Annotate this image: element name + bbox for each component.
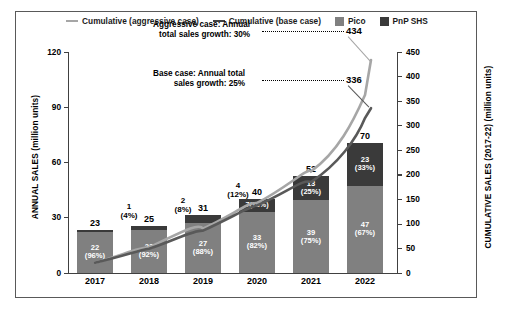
y-label-right-50: 50 — [406, 244, 415, 252]
y-tick-right-50 — [398, 248, 402, 249]
y-label-left-60: 60 — [52, 158, 61, 166]
bar-segment-pnp-2021[interactable]: 13 (25%) — [293, 176, 329, 200]
y-label-right-450: 450 — [406, 48, 420, 56]
y-tick-right-400 — [398, 76, 402, 77]
legend-item-pnp-shs: PnP SHS — [380, 16, 428, 26]
y-tick-right-300 — [398, 125, 402, 126]
bar-segment-pico-2017[interactable]: 22 (96%) — [77, 232, 113, 273]
bar-percent-pico-2019: (88%) — [193, 248, 213, 256]
annotation-aggressive-line2: total sales growth: 30% — [159, 30, 250, 39]
annotation-aggressive-line1: Aggressive case: Annual — [153, 20, 250, 29]
bar-total-2019: 31 — [185, 203, 221, 213]
y-tick-right-350 — [398, 101, 402, 102]
legend-swatch-icon-pico — [335, 17, 344, 26]
y-label-right-0: 0 — [406, 269, 411, 277]
x-label-2020: 2020 — [230, 276, 284, 286]
bar-group-2019[interactable]: 31 27 (88%) 4 (12%) — [185, 215, 221, 272]
bar-segment-pico-2018[interactable]: 23 (92%) — [131, 230, 167, 273]
bar-percent-pico-2020: (82%) — [247, 242, 267, 250]
y-tick-right-0 — [398, 273, 402, 274]
bar-segment-pnp-2019[interactable] — [185, 215, 221, 222]
bar-percent-pico-2022: (67%) — [355, 229, 375, 237]
x-label-2021: 2021 — [284, 276, 338, 286]
x-label-2017: 2017 — [68, 276, 122, 286]
bar-percent-pnp-2021: (25%) — [301, 188, 321, 196]
y-tick-right-450 — [398, 52, 402, 53]
annotation-base-case: Base case: Annual total sales growth: 25… — [153, 69, 245, 90]
bar-total-2021: 52 — [293, 164, 329, 174]
legend-line-icon-aggressive — [66, 20, 78, 23]
y-label-right-400: 400 — [406, 72, 420, 80]
bar-group-2017[interactable]: 23 22 (96%) 1 (4%) — [77, 230, 113, 273]
leader-line-base — [262, 80, 344, 81]
leader-line-aggressive — [262, 31, 344, 32]
y-tick-left-90 — [64, 107, 68, 108]
y-label-left-30: 30 — [52, 213, 61, 221]
bar-group-2022[interactable]: 70 23 (33%) 47 (67%) — [347, 143, 383, 273]
bar-total-2020: 40 — [239, 187, 275, 197]
bar-percent-pico-2018: (92%) — [139, 251, 159, 259]
bar-total-2022: 70 — [347, 131, 383, 141]
y-tick-left-30 — [64, 217, 68, 218]
y-tick-right-150 — [398, 199, 402, 200]
y-axis-left-title: ANNUAL SALES (million units) — [30, 77, 40, 237]
bar-group-2020[interactable]: 40 7(18%) 33 (82%) — [239, 199, 275, 273]
y-label-left-0: 0 — [56, 269, 61, 277]
y-label-right-150: 150 — [406, 195, 420, 203]
bar-segment-pnp-2020[interactable]: 7(18%) — [239, 199, 275, 212]
y-tick-right-250 — [398, 150, 402, 151]
annotation-aggressive-case: Aggressive case: Annual total sales grow… — [153, 20, 250, 41]
annotation-base-line2: sales growth: 25% — [174, 79, 245, 88]
x-axis-line — [68, 273, 398, 274]
bar-value-pnp-2017: 1 — [127, 202, 131, 211]
y-axis-right-line — [397, 52, 398, 274]
bar-segment-pico-2019[interactable]: 27 (88%) — [185, 223, 221, 273]
y-tick-left-120 — [64, 52, 68, 53]
y-axis-right-title: CUMULATIVE SALES (2017-22) (million unit… — [483, 57, 493, 257]
y-label-right-250: 250 — [406, 146, 420, 154]
legend-label-pnp-shs: PnP SHS — [393, 16, 428, 26]
y-tick-left-60 — [64, 162, 68, 163]
y-label-right-350: 350 — [406, 97, 420, 105]
bar-total-2018: 25 — [131, 214, 167, 224]
end-value-aggressive: 434 — [346, 25, 362, 36]
bar-percent-pico-2017: (96%) — [85, 252, 105, 260]
bar-segment-pico-2020[interactable]: 33 (82%) — [239, 212, 275, 273]
bar-percent-pnp-2022: (33%) — [355, 164, 375, 172]
chart-frame: Cumulative (aggressive case) Cumulative … — [15, 11, 477, 298]
y-axis-left-line — [68, 52, 69, 274]
y-tick-left-0 — [64, 273, 68, 274]
bar-group-2018[interactable]: 25 23 (92%) 2 (8%) — [131, 226, 167, 272]
y-tick-right-200 — [398, 174, 402, 175]
bar-segment-pnp-2022[interactable]: 23 (33%) — [347, 143, 383, 186]
y-label-right-200: 200 — [406, 170, 420, 178]
bar-segment-pico-2022[interactable]: 47 (67%) — [347, 186, 383, 273]
bar-segment-pico-2021[interactable]: 39 (75%) — [293, 200, 329, 272]
x-label-2022: 2022 — [338, 276, 392, 286]
bar-group-2021[interactable]: 52 13 (25%) 39 (75%) — [293, 176, 329, 272]
legend-swatch-icon-pnp — [380, 17, 389, 26]
x-label-2018: 2018 — [122, 276, 176, 286]
x-label-2019: 2019 — [176, 276, 230, 286]
y-label-left-90: 90 — [52, 103, 61, 111]
bar-percent-pico-2021: (75%) — [301, 237, 321, 245]
y-label-right-300: 300 — [406, 121, 420, 129]
y-label-right-100: 100 — [406, 219, 420, 227]
y-label-left-120: 120 — [47, 48, 61, 56]
y-tick-right-100 — [398, 224, 402, 225]
bar-label-pnp-2020: 7(18%) — [245, 201, 268, 209]
end-value-base: 336 — [346, 74, 362, 85]
annotation-base-line1: Base case: Annual total — [153, 69, 245, 78]
bar-total-2017: 23 — [77, 218, 113, 228]
